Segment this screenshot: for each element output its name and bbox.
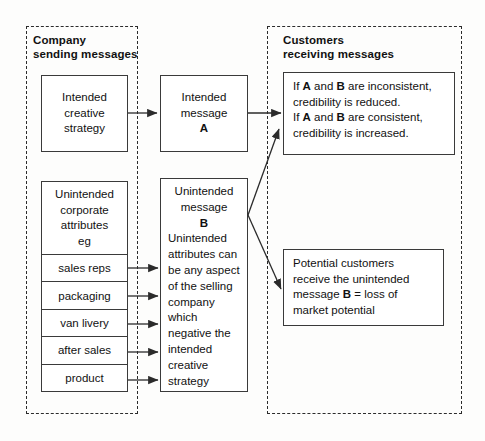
node-unintended-message-b: Unintended message B Unintended attribut… — [160, 178, 248, 392]
attribute-row-packaging: packaging — [42, 282, 127, 309]
diagram-canvas: Company sending messages Customers recei… — [0, 0, 485, 441]
unintended-message-b-body: Unintended attributes can be any aspect … — [161, 231, 247, 389]
node-credibility-statement: If A and B are inconsistent, credibility… — [283, 72, 455, 155]
credibility-line-3: If A and B are consistent, — [293, 110, 446, 126]
potential-line-2: receive the unintended — [293, 272, 435, 288]
node-intended-message-a: Intended message A — [160, 75, 248, 152]
node-potential-customers: Potential customers receive the unintend… — [283, 249, 444, 326]
unintended-message-b-header: Unintended message — [161, 184, 247, 216]
group-customers-title: Customers receiving messages — [283, 33, 433, 61]
attribute-row-sales-reps: sales reps — [42, 255, 127, 282]
node-intended-message-a-text: Intended message — [181, 90, 228, 121]
credibility-line-2: credibility is reduced. — [293, 95, 446, 111]
node-unintended-corporate-attributes: Unintended corporate attributes eg sales… — [41, 181, 128, 392]
potential-line-4: market potential — [293, 303, 435, 319]
unintended-message-b-label: B — [161, 216, 247, 232]
node-intended-creative-strategy: Intended creative strategy — [41, 75, 128, 152]
attribute-row-van-livery: van livery — [42, 310, 127, 337]
node-intended-creative-strategy-text: Intended creative strategy — [62, 90, 107, 137]
credibility-line-1: If A and B are inconsistent, — [293, 79, 446, 95]
group-company-title: Company sending messages — [33, 33, 153, 61]
attribute-row-product: product — [42, 365, 127, 391]
potential-line-1: Potential customers — [293, 256, 435, 272]
node-intended-message-a-label: A — [200, 121, 208, 137]
potential-line-3: message B = loss of — [293, 287, 435, 303]
credibility-line-4: credibility is increased. — [293, 126, 446, 142]
attributes-header: Unintended corporate attributes eg — [42, 182, 127, 255]
attribute-row-after-sales: after sales — [42, 337, 127, 364]
